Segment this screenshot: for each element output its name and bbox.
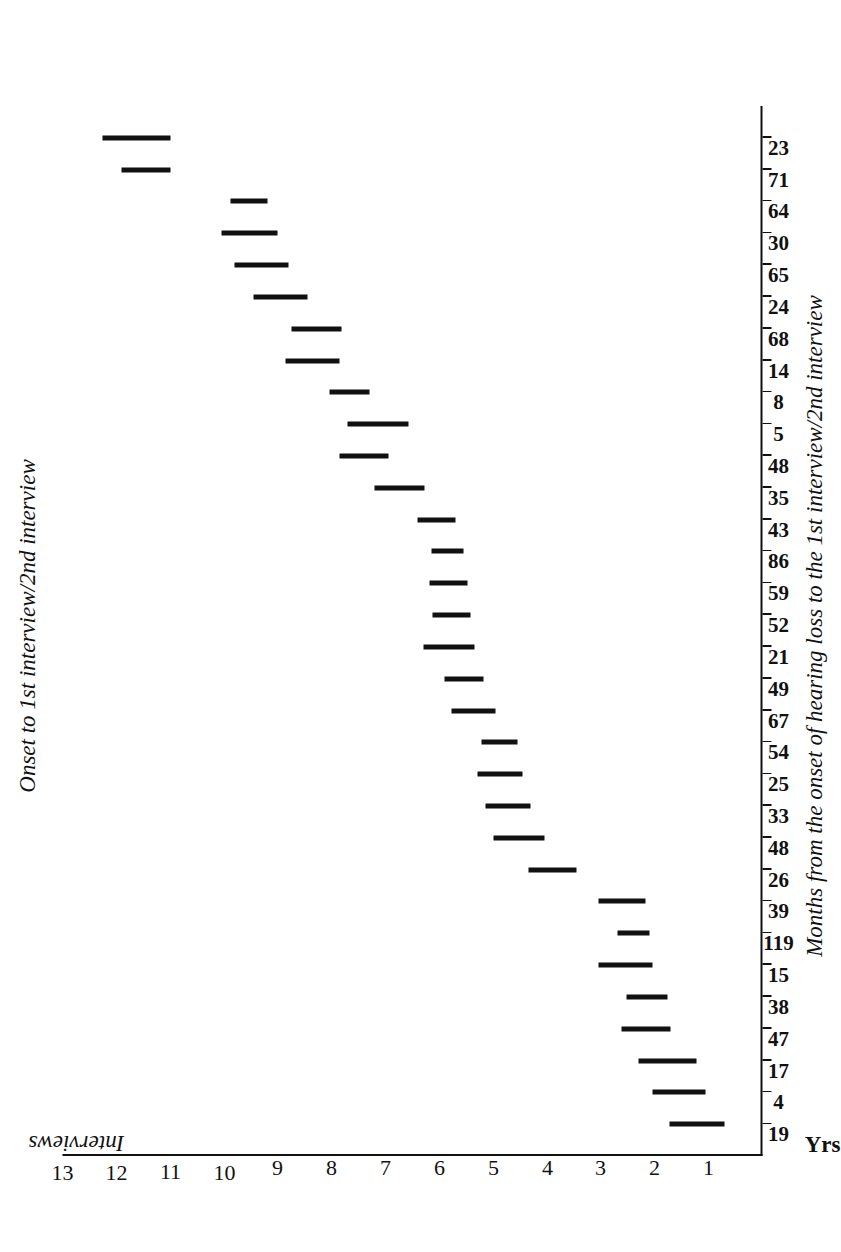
range-bar bbox=[598, 899, 645, 904]
category-tick bbox=[762, 391, 771, 393]
value-tick-label: 5 bbox=[482, 1162, 504, 1190]
range-bar bbox=[652, 1090, 706, 1095]
range-bar bbox=[347, 422, 407, 427]
range-bar bbox=[669, 1122, 724, 1127]
range-bar bbox=[339, 454, 387, 459]
category-tick bbox=[762, 1091, 771, 1093]
range-bar bbox=[374, 485, 424, 490]
value-tick-label: 12 bbox=[105, 1162, 127, 1190]
category-tick-label: 23 bbox=[766, 117, 787, 138]
range-bar bbox=[485, 804, 531, 809]
range-bar bbox=[234, 263, 288, 268]
range-bar bbox=[617, 931, 649, 936]
range-bar bbox=[431, 549, 463, 554]
value-tick-label: 6 bbox=[428, 1162, 450, 1190]
value-tick-label: 13 bbox=[51, 1162, 73, 1190]
range-bar bbox=[621, 1026, 671, 1031]
plot-area: Yrs. 12345678910111213 19417473815119392… bbox=[62, 106, 762, 1156]
range-bar bbox=[221, 231, 278, 236]
range-bar bbox=[285, 358, 339, 363]
range-bar bbox=[423, 644, 474, 649]
value-tick-label: 10 bbox=[213, 1162, 235, 1190]
value-tick-label: 2 bbox=[643, 1162, 665, 1190]
range-bar bbox=[329, 390, 369, 395]
value-tick-label: 9 bbox=[266, 1162, 288, 1190]
value-tick-label: 7 bbox=[374, 1162, 396, 1190]
range-bar bbox=[230, 199, 267, 204]
value-tick-label: 4 bbox=[536, 1162, 558, 1190]
range-bar bbox=[291, 326, 341, 331]
category-tick bbox=[762, 423, 771, 425]
range-bar bbox=[528, 867, 576, 872]
range-bar bbox=[481, 740, 517, 745]
range-bar bbox=[432, 613, 470, 618]
range-bar bbox=[102, 135, 169, 140]
unit-corner-label: Yrs. bbox=[800, 1116, 826, 1158]
range-bar bbox=[444, 676, 483, 681]
value-tick-label: 11 bbox=[159, 1162, 181, 1190]
figure-page: Onset to 1st interview/2nd interview Int… bbox=[0, 0, 841, 1252]
value-tick-label: 8 bbox=[320, 1162, 342, 1190]
value-axis-title: Months from the onset of hearing loss to… bbox=[801, 0, 827, 1252]
range-bar bbox=[638, 1058, 696, 1063]
range-bar bbox=[493, 835, 544, 840]
range-bar bbox=[417, 517, 455, 522]
value-tick-label: 1 bbox=[697, 1162, 719, 1190]
range-bar bbox=[451, 708, 496, 713]
range-bar bbox=[429, 581, 467, 586]
value-tick-label: 3 bbox=[589, 1162, 611, 1190]
range-bar bbox=[598, 963, 652, 968]
chart-title: Onset to 1st interview/2nd interview bbox=[14, 0, 40, 1252]
range-bar bbox=[121, 167, 169, 172]
range-bar bbox=[253, 294, 307, 299]
range-bar bbox=[477, 772, 523, 777]
range-bar bbox=[626, 994, 667, 999]
figure-stage: Onset to 1st interview/2nd interview Int… bbox=[0, 0, 841, 1252]
